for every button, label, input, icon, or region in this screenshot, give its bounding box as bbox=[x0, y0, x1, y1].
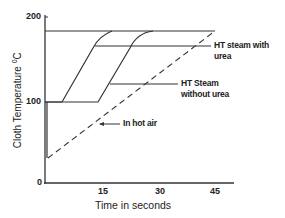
annotation-ht-steam-with-urea: HT steam with urea bbox=[214, 40, 269, 62]
annotation-in-hot-air: In hot air bbox=[123, 118, 157, 129]
series-ht-steam-without-urea bbox=[45, 31, 153, 102]
x-axis-label: Time in seconds bbox=[95, 199, 171, 211]
y-axis-label-text: Cloth Temperature bbox=[12, 63, 23, 148]
series-ht-steam-with-urea bbox=[45, 31, 112, 102]
annotation-line-2: without urea bbox=[181, 89, 229, 100]
y-axis-label: Cloth Temperature 0C bbox=[11, 45, 23, 155]
x-tick-label-15: 15 bbox=[98, 187, 108, 196]
x-tick-label-30: 30 bbox=[155, 187, 165, 196]
y-tick-label-0: 0 bbox=[37, 178, 42, 187]
annotation-line-1: HT steam with bbox=[214, 40, 269, 51]
arrowhead-icon bbox=[99, 122, 104, 126]
y-axis-label-unit: C bbox=[12, 52, 23, 59]
x-tick-label-45: 45 bbox=[210, 187, 220, 196]
line-chart: 200 100 0 15 30 45 Cloth Temperature 0C … bbox=[0, 0, 285, 218]
y-tick-label-200: 200 bbox=[26, 12, 41, 21]
annotation-ht-steam-without-urea: HT Steam without urea bbox=[181, 78, 229, 100]
annotation-line-2: urea bbox=[214, 51, 269, 62]
chart-plot-area bbox=[0, 0, 285, 218]
annotation-line-1: HT Steam bbox=[181, 78, 229, 89]
y-tick-label-100: 100 bbox=[26, 97, 41, 106]
y-axis-label-degree: 0 bbox=[11, 59, 18, 63]
